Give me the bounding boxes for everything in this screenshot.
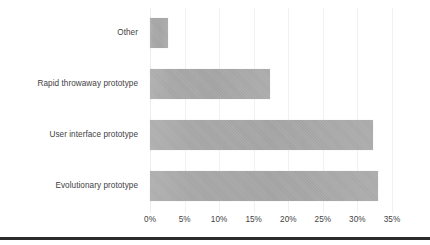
bar-other[interactable] — [150, 18, 168, 48]
xtick-label-0: 0% — [144, 215, 156, 224]
bar-series — [150, 8, 392, 213]
plot-area — [150, 8, 392, 213]
bar-row-evolutionary-prototype — [150, 161, 392, 211]
bar-row-rapid-throwaway-prototype — [150, 59, 392, 109]
bar-rapid-throwaway-prototype[interactable] — [150, 69, 270, 99]
category-label-evolutionary-prototype: Evolutionary prototype — [55, 161, 138, 211]
category-label-rapid-throwaway-prototype: Rapid throwaway prototype — [38, 59, 138, 109]
category-axis: Other Rapid throwaway prototype User int… — [0, 8, 144, 213]
bar-evolutionary-prototype[interactable] — [150, 171, 378, 201]
bar-user-interface-prototype[interactable] — [150, 120, 373, 150]
xtick-label-10: 10% — [211, 215, 228, 224]
xtick-label-20: 20% — [280, 215, 297, 224]
xtick-label-35: 35% — [384, 215, 401, 224]
bar-chart: Other Rapid throwaway prototype User int… — [0, 0, 430, 245]
xtick-label-5: 5% — [179, 215, 191, 224]
xtick-label-25: 25% — [315, 215, 332, 224]
category-label-user-interface-prototype: User interface prototype — [49, 110, 138, 160]
value-axis: 0% 5% 10% 15% 20% 25% 30% 35% — [150, 215, 392, 229]
xtick-label-15: 15% — [245, 215, 262, 224]
bottom-divider — [0, 237, 430, 240]
bar-row-user-interface-prototype — [150, 110, 392, 160]
category-label-other: Other — [117, 8, 138, 58]
xtick-label-30: 30% — [349, 215, 366, 224]
bar-row-other — [150, 8, 392, 58]
gridline-35 — [392, 8, 393, 213]
